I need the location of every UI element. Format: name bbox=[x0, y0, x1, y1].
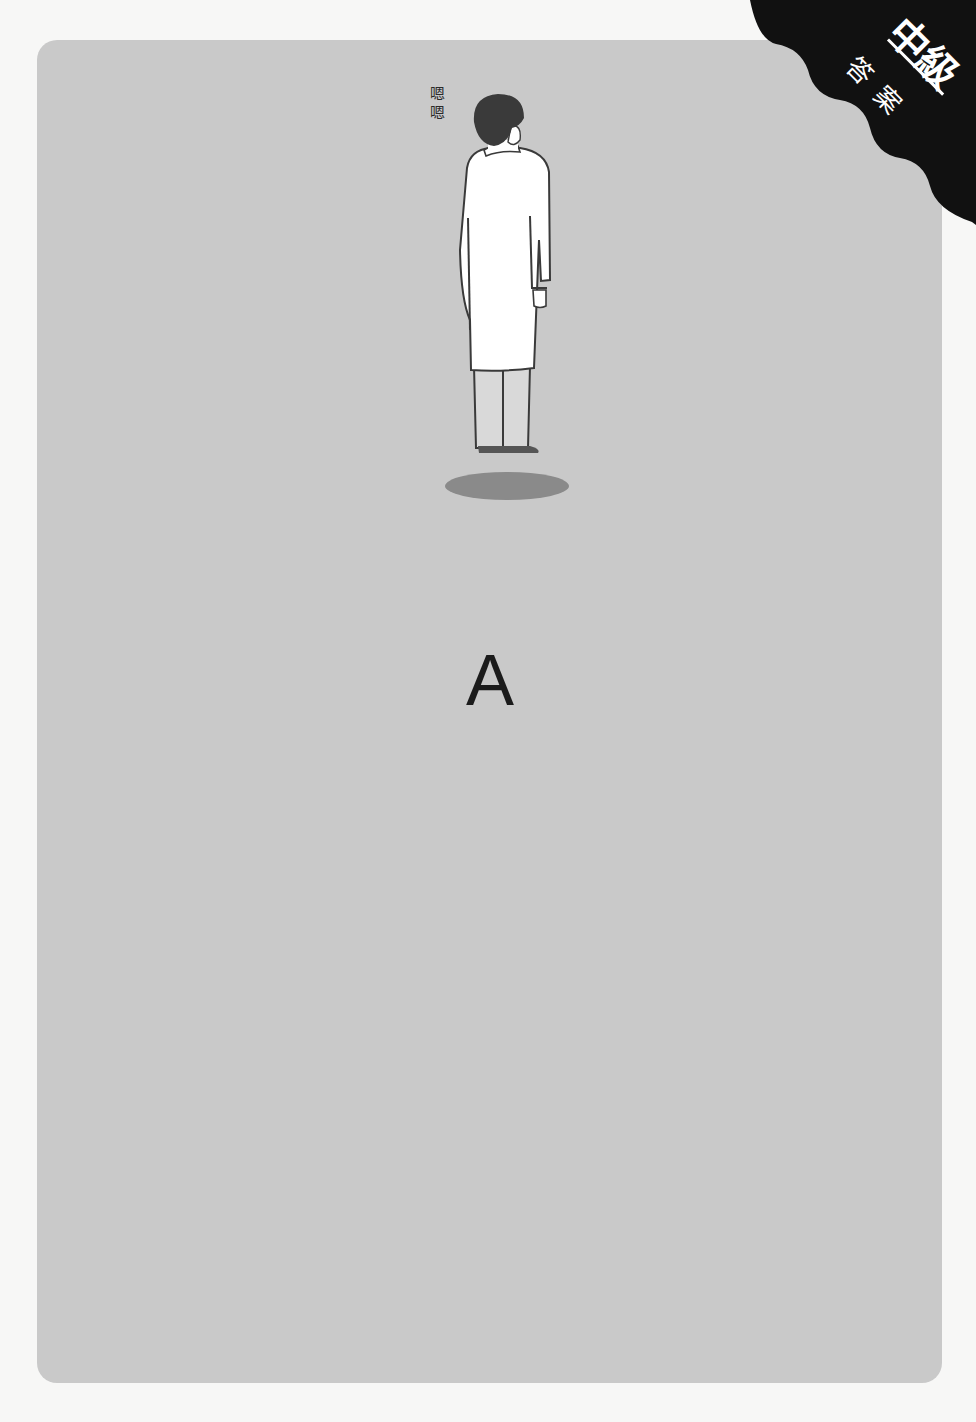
answer-letter: A bbox=[440, 640, 540, 720]
floor-shadow bbox=[445, 472, 569, 500]
speech-marks: 嗯嗯 bbox=[418, 86, 448, 124]
white-coat bbox=[460, 148, 550, 371]
